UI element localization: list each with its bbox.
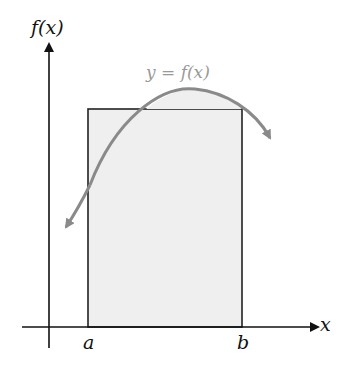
integral-diagram [0,0,347,370]
x-axis-label: x [320,313,331,335]
y-axis-label: f(x) [31,16,64,38]
b-label: b [237,331,249,353]
function-curve-left [66,185,90,227]
curve-label: y = f(x) [146,62,210,82]
a-label: a [83,331,94,353]
